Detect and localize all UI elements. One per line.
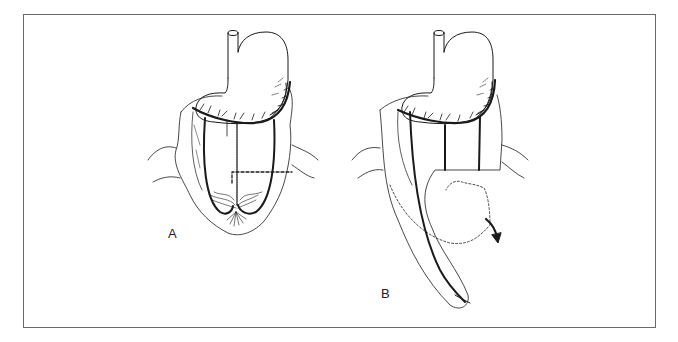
panel-b-drawing xyxy=(352,31,528,309)
panel-a-drawing xyxy=(148,31,318,235)
panel-label-b: B xyxy=(381,286,390,301)
anatomical-illustration xyxy=(0,0,678,342)
panel-label-a: A xyxy=(168,226,177,241)
